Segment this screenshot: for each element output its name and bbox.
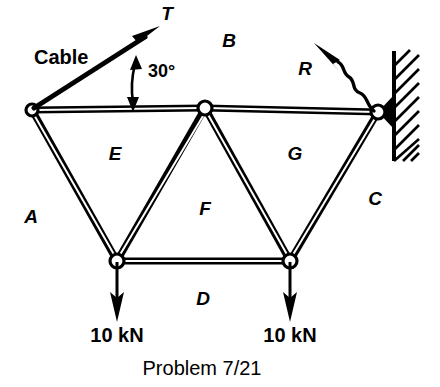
wall-support: [378, 50, 419, 161]
reaction-force-arrow: [314, 43, 374, 111]
cable-label: Cable: [34, 46, 88, 68]
wall-hatching: [394, 50, 419, 161]
force-label-T: T: [161, 3, 174, 24]
member-B: [32, 108, 205, 110]
reaction-squiggle-line: [338, 62, 374, 111]
member-E: [117, 108, 206, 261]
member-C: [290, 112, 378, 261]
force-labels: T R: [161, 3, 312, 79]
member-A: [32, 110, 117, 261]
reaction-arrowhead: [314, 43, 340, 71]
truss-figure: A B C D E F G T R Cable 30° 10 kN 10 kN …: [0, 0, 440, 387]
member-B-right: [205, 108, 378, 112]
angle-indicator-30deg: [127, 55, 142, 112]
member-label-F: F: [199, 198, 212, 219]
truss-members: [32, 108, 378, 261]
load-label-left: 10 kN: [90, 324, 143, 346]
member-label-G: G: [288, 143, 303, 164]
force-label-R: R: [298, 58, 312, 79]
load-arrow-right: [283, 262, 297, 322]
figure-caption: Problem 7/21: [143, 357, 262, 379]
joint-top-mid: [198, 101, 212, 115]
member-label-D: D: [196, 288, 210, 309]
member-label-C: C: [368, 188, 382, 209]
member-label-E: E: [109, 143, 123, 164]
member-labels: A B C D E F G: [23, 30, 382, 309]
load-label-right: 10 kN: [263, 324, 316, 346]
angle-label-30: 30°: [148, 61, 175, 81]
member-label-A: A: [23, 206, 38, 227]
angle-arrow-up: [130, 55, 142, 70]
load-arrow-left: [110, 262, 124, 322]
member-label-B: B: [222, 30, 236, 51]
member-F-G-diagonal: [205, 108, 290, 261]
